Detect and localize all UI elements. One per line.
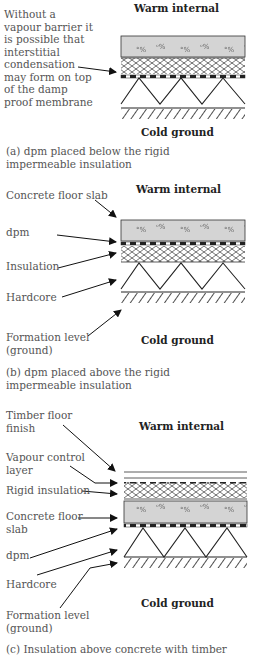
- panel-c-warm-heading: Warm internal: [139, 420, 224, 432]
- label-hardcore-c: Hardcore: [6, 578, 57, 591]
- label-rigid-insulation: Rigid insulation: [6, 484, 90, 497]
- label-concrete-floor-slab: Concrete floor slab: [6, 189, 108, 202]
- panel-a-cold-heading: Cold ground: [141, 126, 214, 138]
- panel-b-section: [57, 200, 245, 336]
- label-concrete-floor-slab-c: Concrete floor slab: [6, 510, 83, 535]
- label-dpm: dpm: [6, 226, 29, 239]
- label-formation-level: Formation level (ground): [6, 331, 89, 356]
- label-vapour-control-layer: Vapour control layer: [6, 451, 85, 476]
- panel-b-warm-heading: Warm internal: [136, 183, 221, 195]
- panel-a-section: [78, 36, 245, 119]
- panel-a-warm-heading: Warm internal: [134, 2, 219, 14]
- panel-b-cold-heading: Cold ground: [141, 334, 214, 346]
- label-insulation: Insulation: [6, 260, 59, 273]
- panel-c-cold-heading: Cold ground: [141, 597, 214, 609]
- label-hardcore: Hardcore: [6, 291, 57, 304]
- panel-a-caption: (a) dpm placed below the rigid impermeab…: [6, 145, 170, 171]
- panel-a-note: Without a vapour barrier it is possible …: [4, 8, 93, 108]
- label-dpm-c: dpm: [6, 549, 29, 562]
- label-formation-level-c: Formation level (ground): [6, 609, 89, 634]
- label-timber-floor-finish: Timber floor finish: [6, 409, 72, 434]
- panel-c-caption: (c) Insulation above concrete with timbe…: [6, 643, 227, 656]
- panel-b-caption: (b) dpm placed above the rigid impermeab…: [6, 366, 170, 392]
